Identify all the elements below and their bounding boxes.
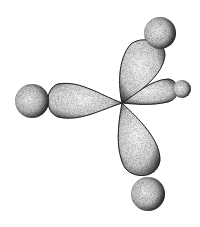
orbital-drawing <box>0 0 200 227</box>
upper-sphere <box>144 17 176 49</box>
orbital-illustration <box>0 0 200 227</box>
right-sphere <box>173 80 191 98</box>
left-lobe <box>48 83 122 118</box>
lower-lobe <box>118 103 160 176</box>
left-sphere <box>15 84 49 118</box>
lower-sphere <box>131 177 165 211</box>
